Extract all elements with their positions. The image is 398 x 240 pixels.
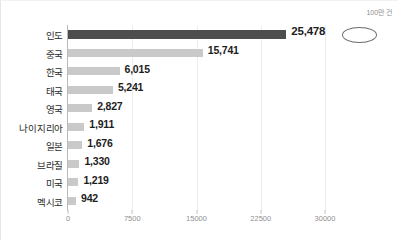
bar[interactable] (68, 160, 79, 168)
category-label[interactable]: 태국 (1, 82, 63, 101)
value-axis: 07500150002250030000 (68, 214, 325, 230)
bar-row[interactable]: 1,330 (68, 156, 325, 175)
bar-value-label: 2,827 (97, 100, 122, 112)
category-label[interactable]: 나이지리아 (1, 119, 63, 138)
axis-tick-label: 22500 (250, 214, 271, 223)
category-label[interactable]: 중국 (1, 45, 63, 64)
bar-value-label: 25,478 (291, 25, 325, 37)
bar-value-label: 1,330 (84, 155, 109, 167)
bar-row[interactable]: 25,478 (68, 26, 325, 45)
bar-value-label: 1,676 (87, 137, 112, 149)
category-label[interactable]: 일본 (1, 137, 63, 156)
bar-value-label: 5,241 (118, 81, 143, 93)
category-label[interactable]: 멕시코 (1, 193, 63, 212)
category-label[interactable]: 미국 (1, 174, 63, 193)
bar[interactable] (68, 86, 113, 94)
axis-tick-label: 7500 (124, 214, 141, 223)
gridline (325, 25, 326, 211)
bar-row[interactable]: 1,911 (68, 119, 325, 138)
bar-row[interactable]: 1,219 (68, 174, 325, 193)
bar-row[interactable]: 15,741 (68, 45, 325, 64)
bar-value-label: 942 (81, 192, 98, 204)
axis-tick-label: 15000 (186, 214, 207, 223)
category-label[interactable]: 브라질 (1, 156, 63, 175)
bar[interactable] (68, 67, 120, 75)
plot-area: 25,47815,7416,0155,2412,8271,9111,6761,3… (68, 25, 325, 211)
bar-chart: 100만 건 인도중국한국태국영국나이지리아일본브라질미국멕시코 25,4781… (0, 0, 398, 240)
highlight-ellipse-annotation (342, 27, 377, 43)
unit-caption: 100만 건 (366, 7, 392, 17)
bar-row[interactable]: 6,015 (68, 63, 325, 82)
bar[interactable] (68, 49, 203, 57)
bar[interactable] (68, 197, 76, 205)
bar[interactable] (68, 141, 82, 149)
axis-tick-label: 0 (66, 214, 70, 223)
bar-value-label: 1,911 (89, 118, 114, 130)
bar[interactable] (68, 178, 78, 186)
category-label[interactable]: 영국 (1, 100, 63, 119)
bar-value-label: 1,219 (83, 174, 108, 186)
axis-tick-label: 30000 (315, 214, 336, 223)
category-label[interactable]: 한국 (1, 63, 63, 82)
bar-row[interactable]: 1,676 (68, 137, 325, 156)
bar[interactable] (68, 123, 84, 131)
bar-highlighted[interactable] (68, 30, 286, 39)
category-label[interactable]: 인도 (1, 26, 63, 45)
bar-row[interactable]: 2,827 (68, 100, 325, 119)
bar-row[interactable]: 942 (68, 193, 325, 212)
bar[interactable] (68, 104, 92, 112)
bar-value-label: 6,015 (125, 63, 150, 75)
bar-value-label: 15,741 (208, 44, 239, 56)
bar-row[interactable]: 5,241 (68, 82, 325, 101)
